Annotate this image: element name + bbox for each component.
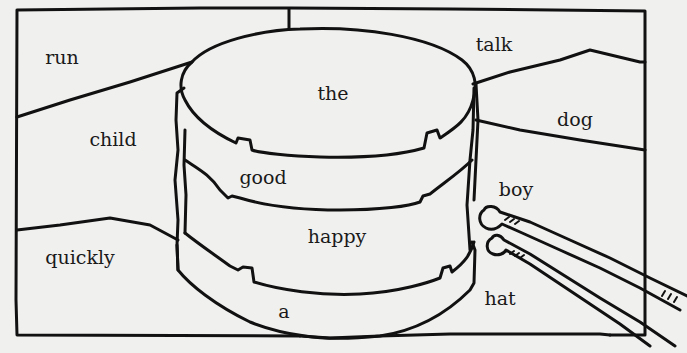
word-hat[interactable]: hat [484,287,515,309]
word-good[interactable]: good [239,166,286,188]
worksheet: run talk the child dog good boy happy qu… [0,0,687,353]
cake-and-tongs-drawing [0,0,687,353]
word-child[interactable]: child [89,128,136,150]
word-boy[interactable]: boy [499,178,533,200]
cake-layer-1 [185,160,472,210]
tongs-upper-grip [505,217,677,302]
word-run[interactable]: run [45,46,79,68]
word-quickly[interactable]: quickly [45,246,114,268]
cake-side-left [175,88,184,270]
divider-child-quickly [17,218,178,240]
word-dog[interactable]: dog [557,108,593,130]
word-a[interactable]: a [278,300,289,322]
cake-base [177,242,475,338]
word-talk[interactable]: talk [476,33,513,55]
divider-talk-dog [473,50,645,84]
cake-side-left-inner [184,130,186,233]
word-the[interactable]: the [317,82,348,104]
word-happy[interactable]: happy [308,225,367,247]
frame-border [16,8,645,336]
divider-run-child [17,62,192,117]
